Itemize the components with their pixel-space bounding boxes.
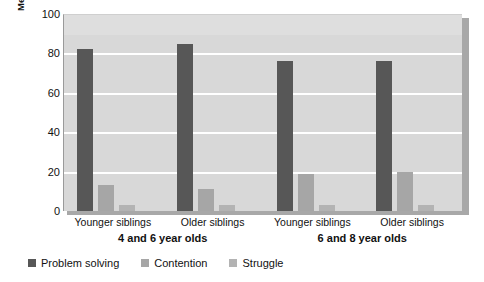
y-tick-label: 40 [34, 127, 60, 138]
bar-1-0 [98, 185, 114, 211]
bar-2-1 [219, 205, 235, 211]
x-tick-label: Younger siblings [263, 216, 363, 229]
legend-swatch-icon [141, 259, 149, 267]
plot-wrapper [63, 14, 469, 215]
y-tick-label: 100 [34, 9, 60, 20]
legend-item-2[interactable]: Struggle [229, 257, 283, 269]
gridline [64, 132, 462, 134]
y-tick-label: 80 [34, 48, 60, 59]
bar-chart: Mean percentage of negotiation strategie… [0, 0, 484, 282]
bar-1-3 [397, 172, 413, 211]
y-tick-label: 20 [34, 167, 60, 178]
y-tick-label: 60 [34, 88, 60, 99]
legend-item-1[interactable]: Contention [141, 257, 207, 269]
y-tick-label: 0 [34, 206, 60, 217]
y-axis-tick-labels: 100806040200 [30, 14, 60, 211]
legend-swatch-icon [28, 259, 36, 267]
group-label: 4 and 6 year olds [63, 231, 263, 245]
plot-area [63, 14, 462, 211]
legend-label: Struggle [242, 257, 283, 269]
bar-2-3 [418, 205, 434, 211]
bar-0-3 [376, 61, 392, 211]
x-tick-label: Older siblings [362, 216, 462, 229]
bar-2-0 [119, 205, 135, 211]
legend-item-0[interactable]: Problem solving [28, 257, 119, 269]
bar-1-2 [298, 174, 314, 211]
gridline [64, 93, 462, 95]
legend-swatch-icon [229, 259, 237, 267]
x-tick-label: Younger siblings [63, 216, 163, 229]
bar-0-1 [177, 44, 193, 211]
group-label: 6 and 8 year olds [263, 231, 463, 245]
bar-0-0 [77, 49, 93, 211]
gridline [64, 53, 462, 55]
legend-label: Contention [154, 257, 207, 269]
chart-legend: Problem solvingContentionStruggle [28, 255, 283, 271]
x-tick-label: Older siblings [163, 216, 263, 229]
bar-1-1 [198, 189, 214, 211]
x-axis-tick-labels: Younger siblingsOlder siblingsYounger si… [63, 216, 469, 230]
bar-2-2 [319, 205, 335, 211]
bar-0-2 [277, 61, 293, 211]
legend-label: Problem solving [41, 257, 119, 269]
x-axis-group-labels: 4 and 6 year olds6 and 8 year olds [63, 231, 469, 247]
